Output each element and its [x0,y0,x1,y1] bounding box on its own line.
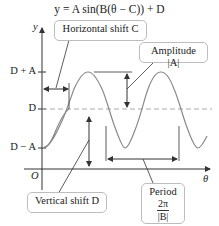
x-axis-label: θ [203,173,208,184]
origin-label: O [31,170,39,181]
period-callout: Period 2π |B| [141,183,185,224]
sine-curve [44,109,69,148]
amplitude-callout: Amplitude |A| [139,42,208,63]
tick-label-d: D [0,102,36,113]
horizontal-shift-callout: Horizontal shift C [54,20,147,41]
period-label: Period [146,186,180,198]
vertical-shift-callout: Vertical shift D [27,192,107,213]
y-axis-label: y [33,21,38,32]
period-fraction: 2π |B| [157,198,169,222]
tick-label-d-plus-a: D + A [0,65,36,76]
tick-label-d-minus-a: D − A [0,141,36,152]
